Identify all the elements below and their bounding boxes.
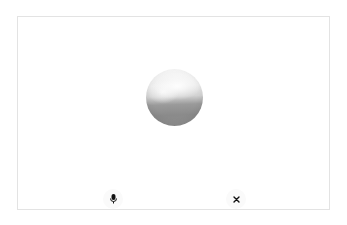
close-icon (233, 196, 240, 203)
microphone-button[interactable] (103, 189, 123, 209)
close-button[interactable] (226, 189, 246, 209)
voice-mode-panel (17, 16, 330, 210)
microphone-icon (110, 194, 117, 204)
voice-orb (146, 69, 203, 126)
